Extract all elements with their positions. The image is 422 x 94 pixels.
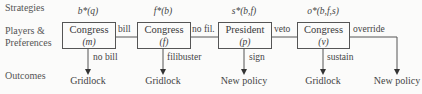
player-name: Congress	[63, 24, 115, 36]
player-name: Congress	[138, 24, 190, 36]
outcome-gridlock: Gridlock	[128, 75, 198, 86]
player-symbol: (v)	[298, 36, 349, 48]
outcome-gridlock: Gridlock	[53, 75, 123, 86]
edge-label-veto: veto	[274, 24, 290, 34]
strategy-label: f*(b)	[133, 6, 193, 16]
player-symbol: (m)	[63, 36, 115, 48]
edge-label-no-bill: no bill	[93, 52, 118, 62]
row-label-outcomes: Outcomes	[5, 70, 46, 81]
outcome-gridlock: Gridlock	[288, 75, 358, 86]
player-symbol: (p)	[219, 36, 271, 48]
edge-label-sustain: sustain	[327, 52, 353, 62]
player-symbol: (f)	[138, 36, 190, 48]
strategy-label: o*(b,f,s)	[293, 6, 353, 16]
strategy-label: b*(q)	[58, 6, 118, 16]
row-label-strategies: Strategies	[5, 2, 44, 13]
player-name: Congress	[298, 24, 349, 36]
player-name: President	[219, 24, 271, 36]
outcome-new-policy: New policy	[209, 75, 279, 86]
player-box-congress-m: Congress (m)	[62, 22, 116, 49]
row-label-players: Players &	[5, 25, 45, 36]
edge-label-sign: sign	[249, 52, 265, 62]
player-box-congress-f: Congress (f)	[137, 22, 191, 49]
edge-label-no-fil: no fil.	[192, 24, 215, 34]
edge-label-filibuster: filibuster	[167, 52, 201, 62]
edge-label-bill: bill	[118, 24, 131, 34]
player-box-president-p: President (p)	[218, 22, 272, 49]
player-box-congress-v: Congress (v)	[297, 22, 350, 49]
outcome-new-policy: New policy	[362, 75, 422, 86]
edge-label-override: override	[353, 24, 385, 34]
row-label-preferences: Preferences	[5, 37, 52, 48]
strategy-label: s*(b,f)	[214, 6, 274, 16]
